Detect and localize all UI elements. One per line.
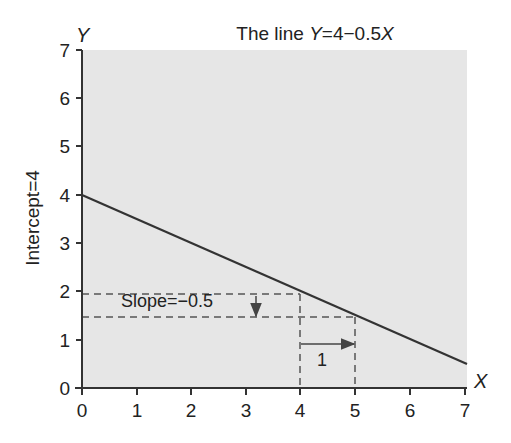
svg-text:5: 5 bbox=[350, 400, 361, 421]
svg-text:4: 4 bbox=[59, 185, 70, 206]
x-axis-label: X bbox=[473, 370, 488, 392]
svg-text:0: 0 bbox=[59, 378, 70, 399]
x-tick-labels: 0 1 2 3 4 5 6 7 bbox=[77, 400, 471, 421]
svg-text:2: 2 bbox=[59, 281, 70, 302]
chart-title: The line Y=4−0.5X bbox=[236, 23, 395, 44]
svg-text:2: 2 bbox=[186, 400, 197, 421]
svg-text:5: 5 bbox=[59, 136, 70, 157]
y-tick-labels: 7 6 5 4 3 2 1 0 bbox=[59, 40, 70, 399]
chart: 7 6 5 4 3 2 1 0 0 1 2 3 4 5 6 7 Y X The … bbox=[0, 0, 511, 443]
intercept-label: Intercept=4 bbox=[22, 170, 43, 266]
run-label: 1 bbox=[317, 350, 327, 370]
plot-area bbox=[82, 50, 467, 388]
slope-label: Slope=−0.5 bbox=[121, 291, 213, 311]
svg-text:1: 1 bbox=[59, 330, 70, 351]
svg-text:1: 1 bbox=[132, 400, 143, 421]
svg-text:7: 7 bbox=[59, 40, 70, 61]
svg-text:3: 3 bbox=[241, 400, 252, 421]
svg-text:4: 4 bbox=[295, 400, 306, 421]
svg-text:3: 3 bbox=[59, 233, 70, 254]
svg-text:6: 6 bbox=[59, 88, 70, 109]
svg-text:0: 0 bbox=[77, 400, 88, 421]
svg-text:6: 6 bbox=[405, 400, 416, 421]
svg-text:7: 7 bbox=[460, 400, 471, 421]
y-axis-label: Y bbox=[76, 24, 91, 46]
